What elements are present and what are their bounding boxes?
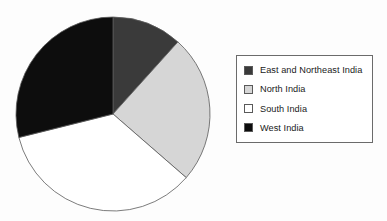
pie-chart-svg: [15, 16, 211, 212]
legend-label-east-and-northeast-india: East and Northeast India: [260, 65, 362, 75]
legend-label-south-india: South India: [260, 104, 307, 114]
pie-chart-plot-area: [15, 16, 211, 212]
legend-swatch-east-and-northeast-india: [244, 66, 253, 75]
legend-label-west-india: West India: [260, 123, 304, 133]
legend-item-north-india[interactable]: North India: [244, 80, 366, 98]
legend-swatch-north-india: [244, 85, 253, 94]
legend-label-north-india: North India: [260, 84, 306, 94]
pie-chart-figure: East and Northeast India North India Sou…: [0, 0, 387, 221]
legend-swatch-south-india: [244, 104, 253, 113]
legend-item-east-and-northeast-india[interactable]: East and Northeast India: [244, 61, 366, 79]
legend-item-south-india[interactable]: South India: [244, 100, 366, 118]
pie-slice-group: [16, 17, 210, 211]
legend-item-west-india[interactable]: West India: [244, 119, 366, 137]
chart-legend: East and Northeast India North India Sou…: [236, 55, 373, 143]
legend-swatch-west-india: [244, 123, 253, 132]
